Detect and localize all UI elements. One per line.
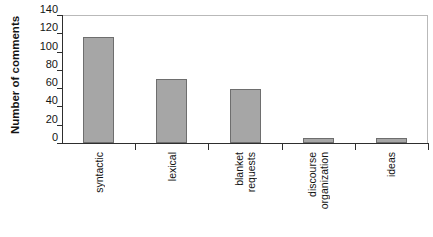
bar — [83, 37, 114, 143]
x-axis-category-label: ideas — [355, 152, 428, 237]
x-axis-category-label-line: lexical — [166, 152, 178, 181]
y-axis-tick-label: 0 — [26, 132, 58, 143]
y-axis-tick-label: 140 — [26, 4, 58, 15]
x-axis-category-label-line: organization — [318, 152, 330, 209]
x-axis-tick-mark — [355, 144, 356, 150]
bar-series — [62, 15, 428, 143]
y-axis-tick-label: 60 — [26, 77, 58, 88]
y-axis-tick-label: 120 — [26, 22, 58, 33]
x-axis-category-label-line: syntactic — [93, 152, 105, 193]
bar-chart-figure: Number of comments 140120100806040200 sy… — [0, 0, 433, 237]
bar — [376, 138, 407, 143]
y-axis-tick-mark — [57, 143, 62, 144]
y-axis-title-text: Number of comments — [9, 16, 21, 134]
x-axis-category-labels: syntacticlexicalblanketrequestsdiscourse… — [62, 152, 428, 237]
x-axis-category-label: lexical — [135, 152, 208, 237]
x-axis-category-label-line: discourse — [306, 152, 318, 197]
y-axis-tick-label: 40 — [26, 95, 58, 106]
x-axis-tick-mark — [282, 144, 283, 150]
x-axis-category-label: syntactic — [62, 152, 135, 237]
y-axis-tick-label: 80 — [26, 59, 58, 70]
x-axis-tick-mark — [428, 144, 429, 150]
x-axis-tick-mark — [135, 144, 136, 150]
x-axis-category-label: blanketrequests — [208, 152, 281, 237]
x-axis-category-label: discourseorganization — [282, 152, 355, 237]
x-axis-tick-mark — [208, 144, 209, 150]
y-axis-tick-label: 20 — [26, 114, 58, 125]
x-axis-category-label-line: ideas — [385, 152, 397, 177]
x-axis-category-label-line: requests — [245, 152, 257, 192]
x-axis-line — [62, 143, 429, 144]
bar — [230, 89, 261, 143]
x-axis-category-label-line: blanket — [233, 152, 245, 186]
bar — [303, 138, 334, 143]
bar — [156, 79, 187, 143]
y-axis-tick-labels: 140120100806040200 — [26, 9, 58, 149]
y-axis-tick-label: 100 — [26, 41, 58, 52]
